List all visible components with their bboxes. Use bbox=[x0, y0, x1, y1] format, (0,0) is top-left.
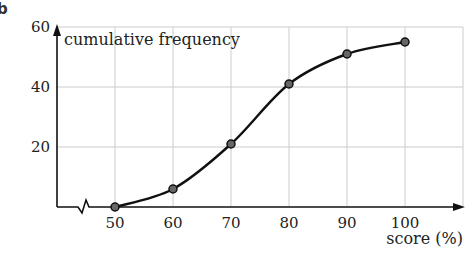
data-point-marker bbox=[285, 80, 293, 88]
x-tick-label: 80 bbox=[279, 214, 298, 232]
x-tick-label: 60 bbox=[163, 214, 182, 232]
x-tick-label: 90 bbox=[337, 214, 356, 232]
data-point-marker bbox=[343, 50, 351, 58]
y-tick-label: 20 bbox=[31, 138, 50, 156]
data-point-marker bbox=[401, 38, 409, 46]
x-axis-label: score (%) bbox=[386, 229, 463, 248]
x-tick-label: 70 bbox=[221, 214, 240, 232]
data-point-marker bbox=[111, 203, 119, 211]
grid-lines bbox=[57, 27, 463, 207]
data-points bbox=[111, 38, 409, 211]
data-point-marker bbox=[227, 140, 235, 148]
cumulative-frequency-chart: 5060708090100204060 cumulative frequency… bbox=[0, 0, 474, 260]
y-tick-label: 60 bbox=[31, 18, 50, 36]
y-tick-label: 40 bbox=[31, 78, 50, 96]
y-axis-label: cumulative frequency bbox=[64, 30, 240, 49]
data-curve bbox=[115, 42, 405, 207]
chart-svg: 5060708090100204060 cumulative frequency… bbox=[0, 0, 474, 260]
data-point-marker bbox=[169, 185, 177, 193]
x-tick-label: 50 bbox=[105, 214, 124, 232]
